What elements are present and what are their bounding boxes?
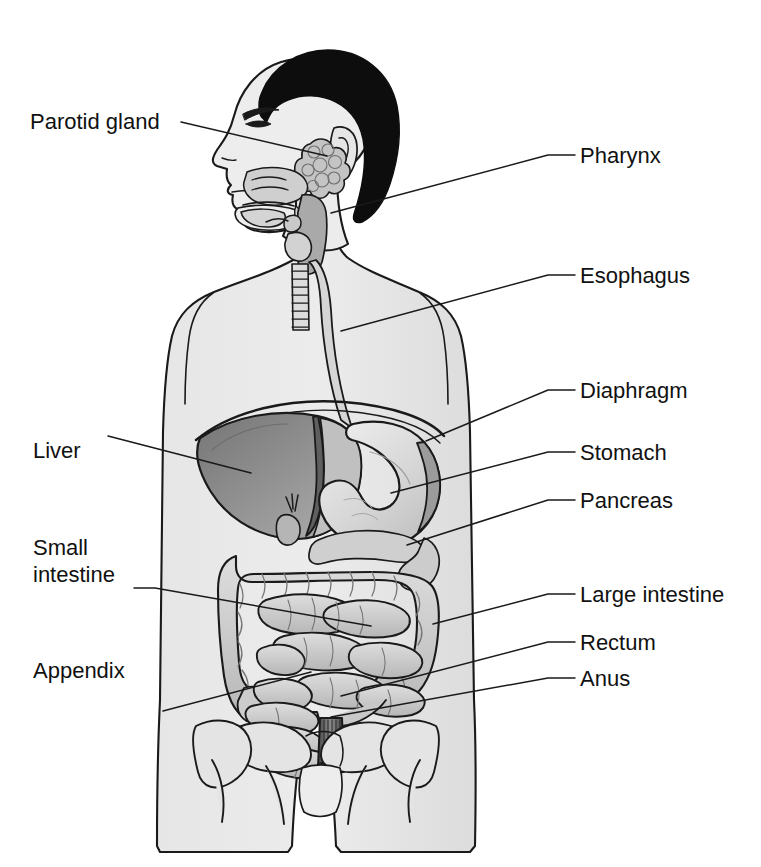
leader-line-rectum — [341, 642, 575, 696]
label-liver: Liver — [33, 437, 81, 464]
label-stomach: Stomach — [580, 439, 667, 466]
label-diaphragm: Diaphragm — [580, 377, 688, 404]
label-small-intestine: Small intestine — [33, 534, 115, 588]
leader-line-diaphragm — [426, 390, 575, 441]
label-parotid-gland: Parotid gland — [30, 108, 160, 135]
leader-line-appendix — [163, 672, 311, 711]
label-rectum: Rectum — [580, 629, 656, 656]
label-large-intestine: Large intestine — [580, 581, 724, 608]
leader-line-large-intestine — [433, 594, 575, 624]
digestive-system-diagram: Parotid glandPharynxEsophagusDiaphragmLi… — [0, 0, 761, 867]
label-pancreas: Pancreas — [580, 487, 673, 514]
label-anus: Anus — [580, 665, 630, 692]
label-esophagus: Esophagus — [580, 262, 690, 289]
leader-line-small-intestine — [134, 588, 371, 626]
leader-line-parotid-gland — [181, 122, 327, 156]
leader-line-stomach — [391, 452, 575, 493]
leader-line-esophagus — [341, 275, 575, 331]
label-pharynx: Pharynx — [580, 142, 661, 169]
leader-line-anus — [331, 678, 575, 717]
leader-line-pancreas — [407, 500, 575, 545]
leader-line-pharynx — [331, 155, 575, 213]
label-appendix: Appendix — [33, 657, 125, 684]
leader-line-liver — [108, 436, 251, 473]
